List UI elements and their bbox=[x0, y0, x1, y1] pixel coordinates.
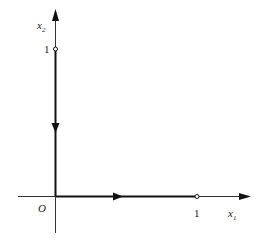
equilibrium-point-0-1 bbox=[54, 47, 58, 51]
x2-axis-arrowhead bbox=[52, 9, 59, 21]
origin-label: O bbox=[38, 202, 46, 214]
x2-axis-label: x2 bbox=[36, 19, 46, 34]
x2-trajectory-arrow bbox=[52, 123, 60, 133]
x1-axis-label: x1 bbox=[227, 207, 236, 222]
x1-tick-label: 1 bbox=[194, 207, 200, 219]
equilibrium-point-1-0 bbox=[195, 195, 199, 199]
phase-diagram: x2 1 O 1 x1 bbox=[0, 0, 266, 243]
x1-trajectory-arrow bbox=[113, 193, 123, 201]
x2-tick-label: 1 bbox=[44, 43, 50, 55]
x1-axis-arrowhead bbox=[239, 193, 251, 200]
